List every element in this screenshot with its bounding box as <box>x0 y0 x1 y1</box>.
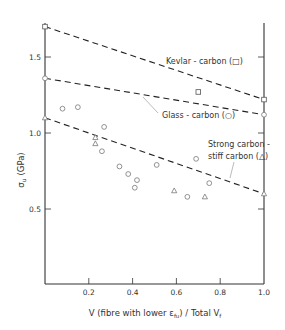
square-marker <box>43 24 48 29</box>
circle-marker <box>75 105 80 110</box>
x-tick-label: 0.8 <box>214 288 226 297</box>
x-label-main: V (fibre with lower ε <box>89 308 174 318</box>
circle-marker <box>43 76 48 81</box>
circle-marker <box>135 178 140 183</box>
label-strong-2: stiff carbon (△) <box>208 152 268 161</box>
circle-marker <box>185 194 190 199</box>
y-tick-label: 1.0 <box>29 129 41 138</box>
circle-marker <box>154 163 159 168</box>
x-tick-label: 1.0 <box>258 288 270 297</box>
triangle-marker <box>202 194 207 199</box>
svg-text:σu(GPa): σu(GPa) <box>16 152 27 187</box>
circle-marker <box>117 164 122 169</box>
circle-marker <box>132 185 137 190</box>
tick-labels: 0.51.01.50.20.40.60.81.0 <box>29 53 270 297</box>
y-label-sub: u <box>20 178 27 182</box>
label-glass: Glass - carbon (○) <box>162 111 235 120</box>
triangle-marker <box>42 115 47 120</box>
y-label-unit: (GPa) <box>16 152 26 175</box>
circle-marker <box>126 172 131 177</box>
leader-glass <box>143 97 158 113</box>
triangle-marker <box>172 188 177 193</box>
label-strong-1: Strong carbon - <box>208 140 270 149</box>
chart-canvas: 0.51.01.50.20.40.60.81.0 Kevlar - carbon… <box>0 0 285 330</box>
label-kevlar: Kevlar - carbon (□) <box>166 57 243 66</box>
x-label-end: ) / Total V <box>179 308 219 318</box>
y-tick-label: 0.5 <box>29 205 41 214</box>
x-tick-label: 0.4 <box>127 288 139 297</box>
circle-marker <box>207 181 212 186</box>
x-axis-label: V (fibre with lower εfu) / Total Vf <box>89 308 222 319</box>
x-tick-label: 0.6 <box>170 288 182 297</box>
triangle-marker <box>93 141 98 146</box>
x-label-end-sub: f <box>219 313 222 319</box>
square-marker <box>196 90 201 95</box>
x-tick-label: 0.2 <box>83 288 95 297</box>
y-tick-label: 1.5 <box>29 53 41 62</box>
triangle-marker <box>261 191 266 196</box>
circle-marker <box>102 125 107 130</box>
leader-strong <box>230 162 234 178</box>
circle-marker <box>60 106 65 111</box>
circle-marker <box>100 149 105 154</box>
circle-marker <box>194 156 199 161</box>
y-axis-label: σu(GPa) <box>16 152 27 187</box>
square-marker <box>262 97 267 102</box>
circle-marker <box>262 112 267 117</box>
